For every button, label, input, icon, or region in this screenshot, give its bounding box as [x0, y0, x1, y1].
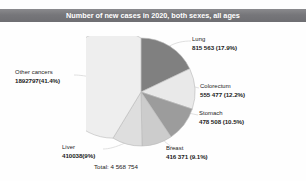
label-breast: Breast 416 371 (9.1%)	[166, 145, 208, 160]
label-breast-name: Breast	[166, 145, 208, 151]
chart-title: Number of new cases in 2020, both sexes,…	[0, 9, 306, 22]
label-lung-value: 815 563 (17.9%)	[192, 44, 237, 51]
pie-svg	[86, 36, 196, 148]
label-colorectum: Colorectum 555 477 (12.2%)	[200, 83, 245, 98]
pie-graphic	[86, 36, 196, 148]
label-liver-value: 410038(9%)	[62, 152, 95, 159]
label-other-cancers-value: 1892797(41.4%)	[15, 77, 60, 84]
label-other-cancers: Other cancers 1892797(41.4%)	[15, 69, 60, 84]
label-other-cancers-name: Other cancers	[15, 69, 60, 75]
chart-header-bar: Number of new cases in 2020, both sexes,…	[0, 9, 306, 22]
label-colorectum-name: Colorectum	[200, 83, 245, 89]
total-label: Total: 4 568 754	[0, 163, 232, 170]
label-stomach-name: Stomach	[199, 110, 244, 116]
label-liver-name: Liver	[62, 144, 95, 150]
label-breast-value: 416 371 (9.1%)	[166, 153, 208, 160]
label-lung: Lung 815 563 (17.9%)	[192, 36, 237, 51]
label-liver: Liver 410038(9%)	[62, 144, 95, 159]
label-stomach: Stomach 478 508 (10.5%)	[199, 110, 244, 125]
label-lung-name: Lung	[192, 36, 237, 42]
label-colorectum-value: 555 477 (12.2%)	[200, 91, 245, 98]
pie-chart-figure: Number of new cases in 2020, both sexes,…	[0, 0, 306, 181]
label-stomach-value: 478 508 (10.5%)	[199, 118, 244, 125]
